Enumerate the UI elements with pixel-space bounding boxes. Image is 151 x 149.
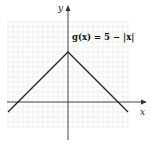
equation-annotation: g(x) = 5 − |x| — [72, 32, 134, 43]
chart: x y g(x) = 5 − |x| — [0, 0, 151, 149]
y-axis-arrow-icon — [66, 5, 71, 11]
y-axis-label: y — [57, 3, 64, 13]
x-axis-label: x — [140, 107, 145, 117]
x-axis-arrow-icon — [141, 100, 147, 105]
